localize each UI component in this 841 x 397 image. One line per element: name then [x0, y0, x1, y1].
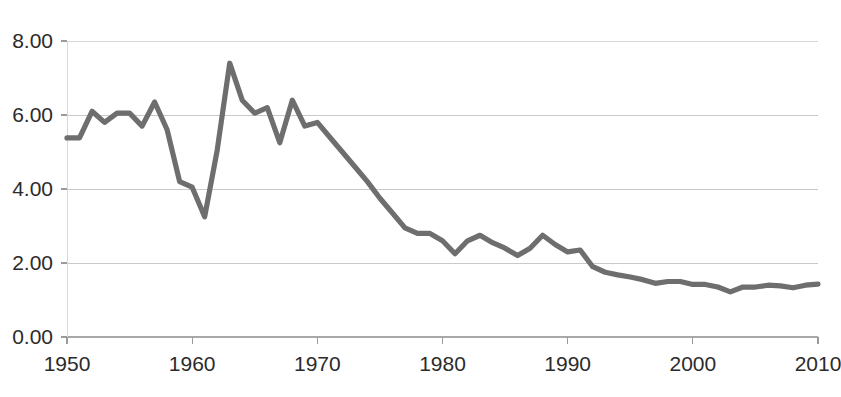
x-tick-label: 2010 [795, 352, 841, 375]
x-tick-label: 1990 [544, 352, 591, 375]
x-tick-labels-group: 1950196019701980199020002010 [44, 352, 841, 375]
data-series-group [67, 63, 818, 292]
y-tick-label: 0.00 [12, 325, 53, 348]
x-tick-label: 1950 [44, 352, 91, 375]
line-chart-plot: 8.006.004.002.000.00 1950196019701980199… [0, 0, 841, 397]
y-tick-label: 4.00 [12, 177, 53, 200]
tick-marks-group [61, 41, 818, 344]
y-tick-label: 2.00 [12, 251, 53, 274]
x-tick-label: 2000 [669, 352, 716, 375]
x-tick-label: 1970 [294, 352, 341, 375]
y-tick-labels-group: 8.006.004.002.000.00 [12, 29, 53, 348]
y-tick-label: 6.00 [12, 103, 53, 126]
gridlines-group [67, 41, 818, 263]
chart-figure: 8.006.004.002.000.00 1950196019701980199… [0, 0, 841, 397]
x-tick-label: 1980 [419, 352, 466, 375]
x-tick-label: 1960 [169, 352, 216, 375]
y-tick-label: 8.00 [12, 29, 53, 52]
series-line-0 [67, 63, 818, 292]
